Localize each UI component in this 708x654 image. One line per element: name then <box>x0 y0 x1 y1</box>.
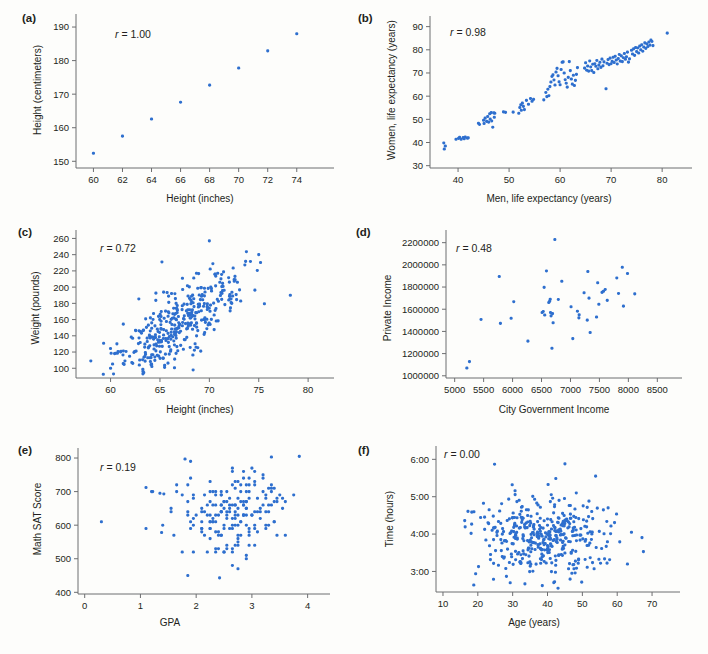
svg-text:160: 160 <box>53 122 69 133</box>
svg-text:180: 180 <box>53 298 69 309</box>
svg-text:170: 170 <box>53 89 69 100</box>
svg-text:2: 2 <box>194 600 199 611</box>
svg-text:40: 40 <box>453 174 464 185</box>
svg-text:6:00: 6:00 <box>411 454 430 465</box>
scatterplot-figure: (a) Height (centimeters) Height (inches)… <box>0 0 708 654</box>
svg-text:70: 70 <box>204 384 215 395</box>
svg-text:60: 60 <box>88 174 99 185</box>
panel-a-plot: 1501601701801906062646668707274 <box>0 0 354 200</box>
svg-text:62: 62 <box>117 174 128 185</box>
svg-text:5:00: 5:00 <box>411 491 430 502</box>
svg-text:1800000: 1800000 <box>402 281 439 292</box>
svg-text:1600000: 1600000 <box>402 304 439 315</box>
svg-text:50: 50 <box>504 174 515 185</box>
svg-text:1: 1 <box>138 600 143 611</box>
panel-a: (a) Height (centimeters) Height (inches)… <box>0 0 354 218</box>
svg-text:80: 80 <box>657 174 668 185</box>
svg-text:70: 70 <box>647 598 658 609</box>
svg-text:64: 64 <box>146 174 157 185</box>
svg-text:66: 66 <box>175 174 186 185</box>
svg-text:3:00: 3:00 <box>411 566 430 577</box>
svg-text:75: 75 <box>253 384 264 395</box>
svg-text:190: 190 <box>53 21 69 32</box>
svg-text:700: 700 <box>55 486 71 497</box>
svg-text:2000000: 2000000 <box>402 259 439 270</box>
svg-text:220: 220 <box>53 265 69 276</box>
svg-text:60: 60 <box>412 91 423 102</box>
svg-text:70: 70 <box>606 174 617 185</box>
panel-d-plot: 1000000120000014000001600000180000020000… <box>354 218 708 413</box>
svg-text:180: 180 <box>53 55 69 66</box>
svg-text:200: 200 <box>53 282 69 293</box>
svg-text:90: 90 <box>412 21 423 32</box>
svg-text:80: 80 <box>303 384 314 395</box>
svg-text:40: 40 <box>542 598 553 609</box>
svg-text:500: 500 <box>55 553 71 564</box>
svg-text:150: 150 <box>53 156 69 167</box>
svg-text:6500: 6500 <box>531 384 552 395</box>
svg-text:2200000: 2200000 <box>402 237 439 248</box>
svg-text:7000: 7000 <box>560 384 581 395</box>
svg-text:1000000: 1000000 <box>402 370 439 381</box>
svg-text:50: 50 <box>577 598 588 609</box>
svg-text:240: 240 <box>53 249 69 260</box>
svg-text:4:00: 4:00 <box>411 528 430 539</box>
svg-text:8000: 8000 <box>618 384 639 395</box>
svg-text:80: 80 <box>412 44 423 55</box>
svg-text:65: 65 <box>155 384 166 395</box>
svg-text:8500: 8500 <box>647 384 668 395</box>
svg-text:72: 72 <box>262 174 273 185</box>
panel-c-plot: 1001201401601802002202402606065707580 <box>0 218 354 413</box>
svg-text:3: 3 <box>249 600 254 611</box>
svg-text:60: 60 <box>555 174 566 185</box>
panel-b-plot: 304050607080904050607080 <box>354 0 708 200</box>
panel-f-plot: 3:004:005:006:0010203040506070 <box>354 434 708 629</box>
panel-d: (d) Private Income City Government Incom… <box>354 218 708 434</box>
svg-text:40: 40 <box>412 137 423 148</box>
svg-text:70: 70 <box>412 67 423 78</box>
svg-text:6000: 6000 <box>502 384 523 395</box>
svg-text:120: 120 <box>53 346 69 357</box>
svg-text:70: 70 <box>233 174 244 185</box>
panel-c: (c) Weight (pounds) Height (inches) r = … <box>0 218 354 434</box>
panel-e-plot: 40050060070080001234 <box>0 434 354 629</box>
svg-text:60: 60 <box>105 384 116 395</box>
svg-text:30: 30 <box>412 160 423 171</box>
svg-text:1400000: 1400000 <box>402 326 439 337</box>
panel-b: (b) Women, life expectancy (years) Men, … <box>354 0 708 218</box>
svg-text:50: 50 <box>412 114 423 125</box>
svg-text:100: 100 <box>53 363 69 374</box>
svg-text:1200000: 1200000 <box>402 348 439 359</box>
svg-text:5500: 5500 <box>473 384 494 395</box>
svg-text:60: 60 <box>612 598 623 609</box>
svg-text:4: 4 <box>305 600 310 611</box>
panel-e: (e) Math SAT Score GPA r = 0.19 40050060… <box>0 434 354 654</box>
svg-text:260: 260 <box>53 233 69 244</box>
svg-text:0: 0 <box>82 600 87 611</box>
svg-text:400: 400 <box>55 587 71 598</box>
svg-text:68: 68 <box>204 174 215 185</box>
svg-text:600: 600 <box>55 520 71 531</box>
svg-text:10: 10 <box>438 598 449 609</box>
svg-text:160: 160 <box>53 314 69 325</box>
svg-text:30: 30 <box>507 598 518 609</box>
svg-text:5000: 5000 <box>444 384 465 395</box>
svg-text:74: 74 <box>291 174 302 185</box>
svg-text:7500: 7500 <box>589 384 610 395</box>
svg-text:800: 800 <box>55 452 71 463</box>
panel-f: (f) Time (hours) Age (years) r = 0.00 3:… <box>354 434 708 654</box>
svg-text:140: 140 <box>53 330 69 341</box>
svg-text:20: 20 <box>473 598 484 609</box>
